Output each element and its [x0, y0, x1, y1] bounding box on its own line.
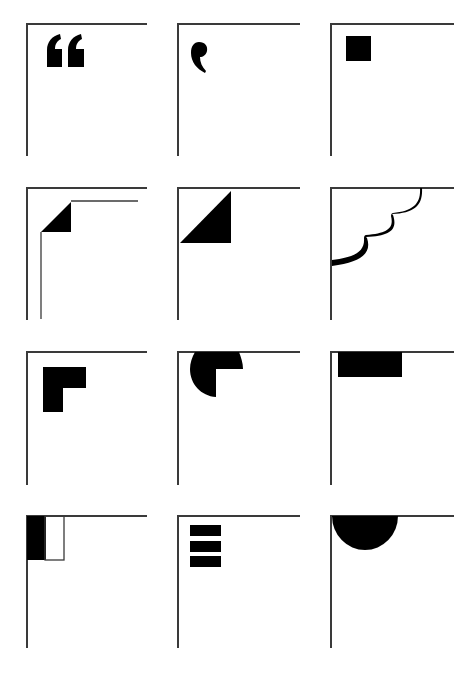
double-quote-icon	[47, 34, 84, 67]
half-disc-icon	[332, 516, 398, 550]
tile-top-bar	[331, 352, 454, 485]
tile-half-disc	[331, 516, 454, 648]
triangle-icon	[180, 191, 231, 243]
tile-l-shape	[27, 352, 147, 485]
filled-half-icon	[27, 516, 46, 560]
bar-icon	[338, 352, 402, 377]
tile-half-filled-box	[27, 516, 147, 648]
three-bars-icon	[190, 525, 221, 567]
tile-scalloped-corner	[331, 188, 454, 320]
three-quarter-disc-icon	[190, 352, 243, 397]
scallop-icon	[332, 188, 422, 266]
tile-double-quote	[27, 24, 147, 156]
folded-corner-icon	[41, 202, 71, 232]
tile-three-quarter-disc	[178, 352, 300, 485]
tile-square	[331, 24, 454, 156]
ornament-sheet	[0, 0, 472, 679]
outline-half-icon	[45, 516, 64, 560]
tile-folded-corner	[27, 188, 147, 320]
tile-triangle-corner	[178, 188, 300, 320]
tile-comma	[178, 24, 300, 156]
l-shape-icon	[43, 367, 86, 412]
square-icon	[346, 36, 371, 61]
comma-icon	[191, 42, 207, 73]
tile-three-bars	[178, 516, 300, 648]
